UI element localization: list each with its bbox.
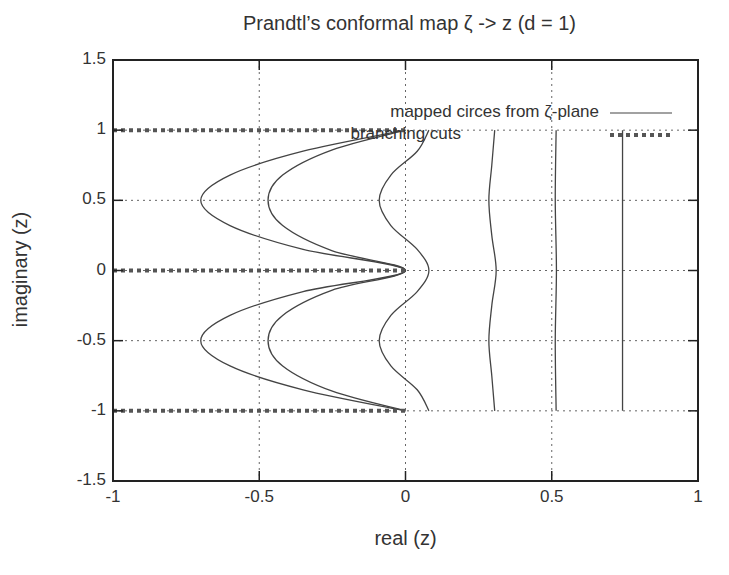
legend-label-mapped-circles: mapped circes from ζ-plane	[390, 102, 599, 122]
x-tick-label: 0	[386, 487, 426, 507]
y-tick-label: -0.5	[40, 330, 106, 350]
legend-label-branching-cuts: branching cuts	[350, 124, 461, 144]
y-tick-label: -1.5	[40, 470, 106, 490]
x-tick-label: -0.5	[239, 487, 279, 507]
x-axis-label: real (z)	[113, 527, 698, 550]
y-tick-label: 1	[40, 119, 106, 139]
y-tick-label: 1.5	[40, 49, 106, 69]
x-tick-label: 1	[678, 487, 718, 507]
y-tick-label: -1	[40, 400, 106, 420]
mapped-circle-curve	[555, 130, 556, 411]
chart-title: Prandtl’s conformal map ζ -> z (d = 1)	[0, 12, 729, 35]
y-tick-label: 0.5	[40, 189, 106, 209]
y-axis-label: imaginary (z)	[9, 190, 32, 350]
mapped-circle-curve	[201, 130, 406, 411]
x-tick-label: -1	[93, 487, 133, 507]
x-tick-label: 0.5	[532, 487, 572, 507]
y-tick-label: 0	[40, 260, 106, 280]
